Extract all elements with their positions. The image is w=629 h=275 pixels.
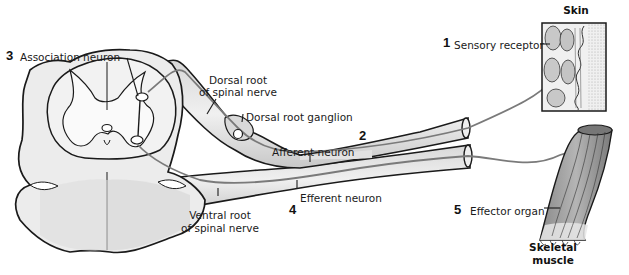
ventral-root-label-line2: of spinal nerve [175,222,265,234]
reflex-arc-diagram: 3 Association neuron Dorsal root of spin… [0,0,629,275]
skeletal-muscle [540,125,612,245]
step-number-5: 5 [454,202,461,217]
effector-organ-label: Effector organ [470,205,545,217]
skin-label: Skin [556,4,596,17]
skeletal-muscle-label-line2: muscle [523,254,583,267]
afferent-neuron-label: Afferent neuron [272,146,354,158]
step-number-3: 3 [6,48,13,63]
association-neuron-label: Association neuron [20,51,120,63]
efferent-neuron-label: Efferent neuron [300,192,382,204]
step-number-4: 4 [289,202,296,217]
dorsal-root-label-line2: of spinal nerve [193,86,283,98]
ventral-root-label-line1: Ventral root [180,209,260,221]
skin-section [542,23,606,111]
skeletal-muscle-label-line1: Skeletal [523,241,583,254]
ganglion-cell [234,130,243,139]
step-number-2: 2 [359,128,366,143]
step-number-1: 1 [443,35,450,50]
sensory-receptor-label: Sensory receptor [454,39,544,51]
dorsal-root-ganglion-label: Dorsal root ganglion [246,111,353,123]
dorsal-root-label-line1: Dorsal root [198,74,278,86]
